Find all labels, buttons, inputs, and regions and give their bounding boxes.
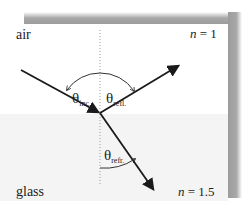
glass-index-label: n = 1.5 [178,184,215,199]
frame-shadow-right [228,12,242,198]
air-index-label: n = 1 [190,26,217,41]
theta-refl-symbol: θ [106,90,113,106]
theta-refr-symbol: θ [104,147,111,163]
air-index-value: 1 [210,26,217,41]
glass-index-value: 1.5 [198,184,214,199]
glass-index-eq: = [185,184,199,199]
frame-shadow-top [24,12,240,24]
air-index-eq: = [197,26,211,41]
theta-refr-subscript: refr. [111,156,124,165]
theta-inc-subscript: inc. [79,99,91,108]
glass-label: glass [16,184,44,199]
theta-refl-subscript: refl. [113,99,126,108]
theta-inc-symbol: θ [72,90,79,106]
air-label: air [16,27,31,42]
optics-diagram: air glass n = 1 n = 1.5 θinc. θrefl. θre… [0,0,252,211]
